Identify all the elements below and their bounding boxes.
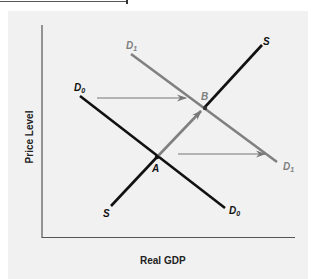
point-a-marker: [155, 155, 159, 159]
label-d1-bottom: D1: [283, 161, 294, 173]
ad-as-diagram: D0 D1 S B A D1 S D0: [0, 0, 311, 279]
supply-curve-lower: [111, 157, 157, 206]
point-b-marker: [203, 106, 207, 110]
x-axis-label: Real GDP: [140, 255, 186, 266]
supply-curve-upper: [205, 45, 262, 107]
demand-curve-d0: [80, 96, 225, 208]
label-d1-top: D1: [126, 40, 137, 52]
label-point-b: B: [201, 91, 208, 102]
movement-arrow-a-to-b: [158, 111, 201, 156]
label-d0-top: D0: [74, 82, 85, 94]
label-point-a: A: [151, 163, 159, 174]
label-s-top: S: [263, 36, 270, 47]
label-s-bottom: S: [103, 208, 110, 219]
label-d0-bottom: D0: [229, 205, 240, 217]
y-axis-label: Price Level: [24, 107, 35, 167]
